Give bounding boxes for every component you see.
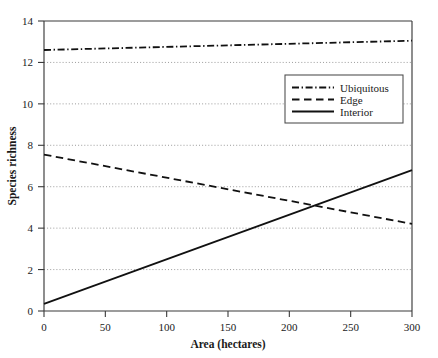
legend: Ubiquitous Edge Interior xyxy=(285,75,403,123)
y-tick-label-0: 0 xyxy=(28,305,34,317)
y-tick-label-8: 8 xyxy=(28,139,34,151)
y-axis-title: Species richness xyxy=(6,126,19,205)
x-tick-label-200: 200 xyxy=(281,321,298,333)
legend-label-ubiquitous: Ubiquitous xyxy=(340,82,389,94)
chart-background xyxy=(0,0,438,358)
y-tick-label-10: 10 xyxy=(22,98,34,110)
x-tick-label-0: 0 xyxy=(41,321,47,333)
y-tick-label-12: 12 xyxy=(22,56,33,68)
y-tick-label-4: 4 xyxy=(28,222,34,234)
y-tick-label-2: 2 xyxy=(28,264,34,276)
y-tick-label-6: 6 xyxy=(28,181,34,193)
legend-label-interior: Interior xyxy=(340,106,373,118)
x-tick-label-100: 100 xyxy=(158,321,175,333)
chart-figure: 0 2 4 6 8 10 12 14 0 50 100 150 200 250 … xyxy=(0,0,438,358)
x-tick-label-250: 250 xyxy=(342,321,359,333)
species-richness-line-chart: 0 2 4 6 8 10 12 14 0 50 100 150 200 250 … xyxy=(0,0,438,358)
y-tick-label-14: 14 xyxy=(22,15,34,27)
x-tick-label-300: 300 xyxy=(404,321,421,333)
x-tick-label-150: 150 xyxy=(220,321,237,333)
x-tick-label-50: 50 xyxy=(100,321,112,333)
x-axis-title: Area (hectares) xyxy=(190,338,265,351)
legend-label-edge: Edge xyxy=(340,94,363,106)
